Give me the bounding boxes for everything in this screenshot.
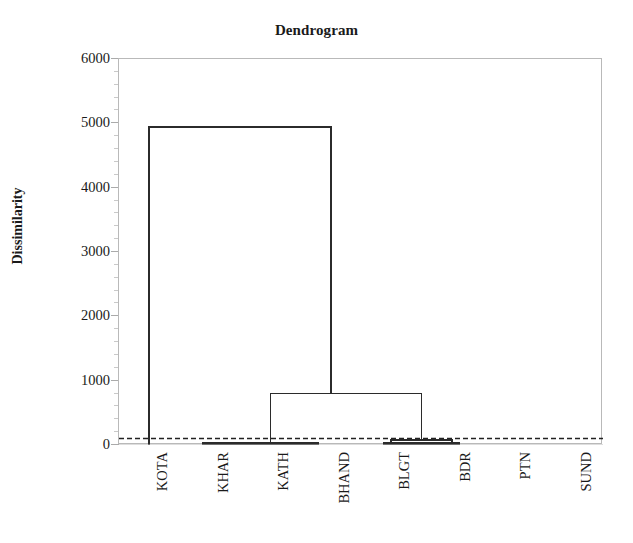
y-tick-mark xyxy=(111,444,119,445)
x-tick-label-text: BDR xyxy=(457,452,474,482)
x-tick-label-text: BLGT xyxy=(396,452,413,490)
x-tick-label-text: KATH xyxy=(275,452,292,491)
y-tick-label: 3000 xyxy=(48,243,110,260)
y-tick-label: 6000 xyxy=(48,50,110,67)
link-top-root xyxy=(149,127,331,445)
y-axis-tick-labels: 6000500040003000200010000 xyxy=(44,0,110,543)
x-tick-label-text: PTN xyxy=(517,452,534,479)
plot-area xyxy=(118,58,602,444)
y-tick-label: 2000 xyxy=(48,307,110,324)
dendrogram-canvas xyxy=(119,59,603,445)
x-tick-label-text: KOTA xyxy=(154,452,171,491)
link-mid-cluster xyxy=(271,394,422,445)
y-tick-label: 0 xyxy=(48,436,110,453)
dendrogram-links xyxy=(149,127,460,445)
y-tick-label: 5000 xyxy=(48,114,110,131)
x-tick-label-text: SUND xyxy=(578,452,595,491)
x-tick-label-text: KHAR xyxy=(215,452,232,493)
x-tick-label-text: BHAND xyxy=(336,452,353,504)
y-tick-label: 1000 xyxy=(48,371,110,388)
y-tick-label: 4000 xyxy=(48,178,110,195)
dendrogram-screenshot: Dendrogram Dissimilarity 600050004000300… xyxy=(0,0,633,543)
y-axis-title: Dissimilarity xyxy=(10,166,26,286)
truncation-line xyxy=(119,439,603,445)
